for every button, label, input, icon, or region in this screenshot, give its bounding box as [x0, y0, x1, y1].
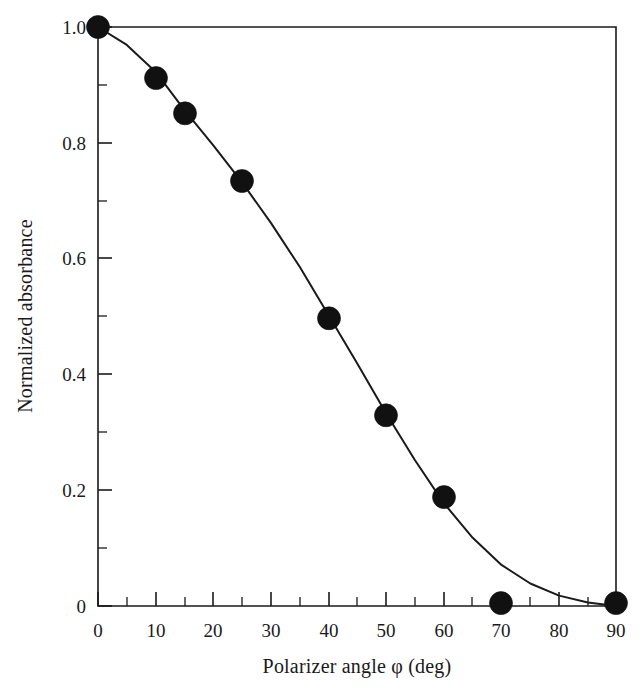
data-point [318, 307, 341, 330]
y-axis-title: Normalized absorbance [14, 219, 36, 413]
y-tick-label: 0.4 [62, 364, 86, 385]
data-point [87, 16, 110, 39]
y-tick-label: 0 [77, 596, 87, 617]
chart-canvas: 1.0 0.8 0.6 0.4 0.2 0 0 10 20 30 40 50 6… [0, 0, 643, 700]
x-tick-label: 0 [93, 620, 103, 641]
figure-container: 1.0 0.8 0.6 0.4 0.2 0 0 10 20 30 40 50 6… [0, 0, 643, 700]
x-axis-title: Polarizer angle φ (deg) [263, 655, 452, 678]
y-tick-label: 1.0 [62, 17, 86, 38]
x-tick-label: 30 [262, 620, 281, 641]
y-tick-label: 0.2 [62, 480, 86, 501]
x-tick-label: 90 [607, 620, 626, 641]
x-tick-label: 80 [550, 620, 569, 641]
x-tick-label: 20 [204, 620, 223, 641]
data-point [490, 592, 513, 615]
x-tick-label: 70 [492, 620, 511, 641]
x-tick-label: 10 [147, 620, 166, 641]
y-axis-minor-ticks [98, 85, 107, 548]
data-point [231, 170, 254, 193]
x-tick-label: 60 [435, 620, 454, 641]
data-point [605, 592, 628, 615]
data-markers-group [87, 16, 628, 615]
y-axis-tick-labels: 1.0 0.8 0.6 0.4 0.2 0 [62, 17, 86, 617]
y-tick-label: 0.8 [62, 133, 86, 154]
x-axis-minor-ticks [127, 597, 588, 606]
data-point [433, 486, 456, 509]
data-point [174, 102, 197, 125]
data-point [145, 67, 168, 90]
y-tick-label: 0.6 [62, 248, 86, 269]
x-tick-label: 50 [377, 620, 396, 641]
x-tick-label: 40 [320, 620, 339, 641]
data-point [375, 404, 398, 427]
x-axis-tick-labels: 0 10 20 30 40 50 60 70 80 90 [93, 620, 625, 641]
